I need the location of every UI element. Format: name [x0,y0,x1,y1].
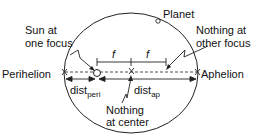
perihelion-label: Perihelion [2,68,51,80]
sun-focus-label-line2: one focus [25,37,73,49]
dist-peri-main: dist [70,84,87,96]
sun-leader-line [70,50,94,70]
dist-ap-arrow [99,77,196,82]
dist-peri-label: distperi [70,84,100,98]
center-leader-line [122,78,131,103]
center-label-line1: Nothing [106,104,144,116]
planet-marker [156,19,160,23]
planet-label: Planet [163,8,194,20]
focal-length-left-label: f [112,48,115,60]
sun-focus-label-line1: Sun at [25,24,57,36]
dist-ap-label: distap [134,84,160,98]
center-label-line2: at center [106,116,149,128]
other-focus-leader-line [168,46,208,67]
center-x-mark [129,68,134,74]
focal-dimension-lines [97,58,166,66]
dist-peri-arrow [66,77,95,82]
dist-ap-main: dist [134,84,151,96]
other-focus-label-line1: Nothing at [196,24,246,36]
other-focus-label-line2: other focus [196,37,250,49]
aphelion-label: Aphelion [201,68,244,80]
dist-ap-sub: ap [151,90,160,99]
center-leader-arrowhead [128,75,133,81]
dist-peri-sub: peri [87,90,100,99]
focal-length-right-label: f [146,48,149,60]
